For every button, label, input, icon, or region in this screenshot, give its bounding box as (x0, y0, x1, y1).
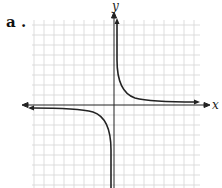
coordinate-graph: x y (0, 0, 222, 188)
grid (32, 20, 200, 188)
curve-up-arrow-icon (115, 18, 120, 24)
curve-left-arrow-icon (28, 106, 34, 111)
x-axis-label: x (212, 98, 219, 112)
axes (22, 12, 210, 188)
y-axis-label: y (111, 0, 119, 13)
x-axis-left-arrow-icon (22, 103, 28, 108)
x-axis-arrow-icon (204, 103, 210, 108)
curve-right-arrow-icon (194, 100, 200, 105)
